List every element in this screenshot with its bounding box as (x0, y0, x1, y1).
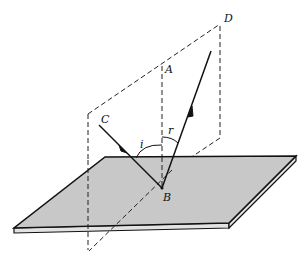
label-b: B (162, 191, 171, 204)
label-d: D (223, 12, 233, 25)
incident-arrow-icon (119, 145, 127, 153)
label-a: A (164, 63, 173, 76)
angle-r-arc (162, 137, 178, 143)
point-b-dot (161, 187, 164, 190)
reflecting-plate (14, 156, 296, 233)
label-r: r (168, 124, 174, 137)
plane-of-incidence (88, 24, 220, 170)
reflection-diagram: D A C i r B (0, 0, 308, 259)
label-i: i (140, 138, 144, 151)
label-c: C (101, 113, 110, 126)
